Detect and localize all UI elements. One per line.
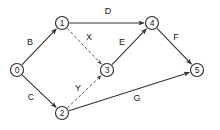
edge-label-E: E [119, 37, 125, 47]
node-label-1: 1 [60, 18, 65, 28]
edge-label-B: B [27, 37, 33, 47]
graph-node-5[interactable]: 5 [191, 64, 204, 77]
edge-label-F: F [173, 32, 179, 42]
graph-canvas: BCDXYEFG 012345 [0, 0, 220, 130]
graph-node-4[interactable]: 4 [146, 17, 159, 30]
graph-edge-2-to-5 [69, 72, 189, 110]
graph-edge-2-to-3 [67, 76, 101, 108]
graph-node-2[interactable]: 2 [56, 107, 69, 120]
graph-node-1[interactable]: 1 [56, 17, 69, 30]
graph-edge-3-to-4 [112, 29, 146, 65]
node-label-5: 5 [195, 65, 200, 75]
edge-label-Y: Y [75, 83, 81, 93]
edge-label-C: C [28, 92, 35, 102]
edge-label-D: D [105, 6, 112, 16]
edge-label-X: X [86, 32, 92, 42]
graph-node-0[interactable]: 0 [11, 64, 24, 77]
node-label-4: 4 [150, 18, 155, 28]
node-label-3: 3 [105, 65, 110, 75]
graph-edge-1-to-3 [67, 28, 101, 64]
directed-graph-diagram: BCDXYEFG 012345 [0, 0, 220, 130]
node-label-2: 2 [60, 108, 65, 118]
node-label-0: 0 [15, 65, 20, 75]
edge-label-G: G [133, 93, 140, 103]
graph-node-3[interactable]: 3 [101, 64, 114, 77]
